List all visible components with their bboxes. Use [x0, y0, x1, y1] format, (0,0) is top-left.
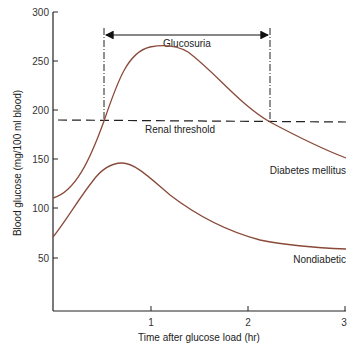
- diabetes-mellitus-label: Diabetes mellitus: [270, 165, 346, 176]
- x-tick-3: 3: [341, 317, 347, 328]
- nondiabetic-label: Nondiabetic: [293, 254, 346, 265]
- x-tick-2: 2: [245, 317, 251, 328]
- y-tick-50: 50: [38, 253, 50, 264]
- glucose-tolerance-chart: 300 250 200 150 100 50 1 2 3 Time after …: [0, 0, 360, 346]
- renal-threshold-line: [58, 120, 346, 122]
- y-axis: [53, 12, 58, 311]
- x-axis-title: Time after glucose load (hr): [138, 332, 260, 343]
- x-tick-1: 1: [148, 317, 154, 328]
- glucosuria-label: Glucosuria: [163, 38, 211, 49]
- y-tick-250: 250: [32, 56, 49, 67]
- y-tick-100: 100: [32, 203, 49, 214]
- y-axis-title: Blood glucose (mg/100 ml blood): [12, 90, 23, 236]
- x-axis: [53, 306, 346, 311]
- y-tick-300: 300: [32, 7, 49, 18]
- y-tick-200: 200: [32, 105, 49, 116]
- y-tick-150: 150: [32, 154, 49, 165]
- renal-threshold-label: Renal threshold: [145, 124, 215, 135]
